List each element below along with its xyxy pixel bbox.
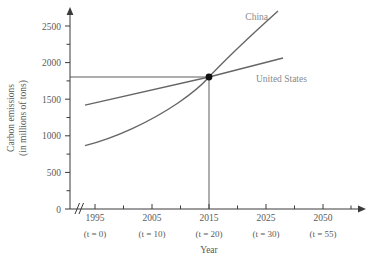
x-sublabel-t55: (t = 55) xyxy=(309,229,336,239)
x-axis-title: Year xyxy=(200,245,218,255)
y-axis-title-line2: (in millions of tons) xyxy=(18,80,29,156)
y-tick-label-2500: 2500 xyxy=(42,22,61,32)
x-axis-sublabels: (t = 0) (t = 10) (t = 20) (t = 30) (t = … xyxy=(84,229,337,239)
x-sublabel-t20: (t = 20) xyxy=(195,229,222,239)
y-axis xyxy=(67,7,74,209)
y-axis-tick-labels: 0 500 1000 1500 2000 2500 xyxy=(42,22,61,215)
x-axis-tick-labels: 1995 2005 2015 2025 2050 xyxy=(86,213,333,223)
y-axis-title: Carbon emissions (in millions of tons) xyxy=(6,80,29,156)
x-tick-label-1995: 1995 xyxy=(86,213,105,223)
x-tick-label-2025: 2025 xyxy=(257,213,276,223)
y-tick-label-1500: 1500 xyxy=(42,95,61,105)
series-label-united-states: United States xyxy=(256,74,307,84)
intersection-guides xyxy=(70,77,209,209)
x-tick-label-2050: 2050 xyxy=(314,213,333,223)
y-tick-label-2000: 2000 xyxy=(42,58,61,68)
x-axis xyxy=(70,206,366,213)
x-sublabel-t30: (t = 30) xyxy=(252,229,279,239)
x-sublabel-t0: (t = 0) xyxy=(84,229,107,239)
y-tick-label-500: 500 xyxy=(47,168,62,178)
series-label-china: China xyxy=(245,12,268,22)
y-tick-label-0: 0 xyxy=(56,205,61,215)
x-tick-label-2015: 2015 xyxy=(200,213,219,223)
y-axis-arrow-icon xyxy=(67,7,74,15)
carbon-emissions-chart: 0 500 1000 1500 2000 2500 1995 2005 xyxy=(0,0,372,260)
chart-canvas: 0 500 1000 1500 2000 2500 1995 2005 xyxy=(0,0,372,260)
y-axis-minor-ticks xyxy=(67,44,71,190)
x-sublabel-t10: (t = 10) xyxy=(138,229,165,239)
intersection-point-marker xyxy=(206,74,213,81)
y-tick-label-1000: 1000 xyxy=(42,131,61,141)
series-line-china xyxy=(85,11,278,146)
x-axis-minor-ticks xyxy=(124,206,352,210)
y-axis-title-line1: Carbon emissions xyxy=(6,84,16,152)
x-tick-label-2005: 2005 xyxy=(143,213,162,223)
x-axis-arrow-icon xyxy=(358,206,366,213)
